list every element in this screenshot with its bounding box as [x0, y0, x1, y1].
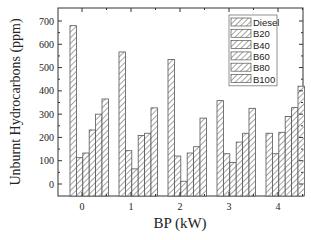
bar-b60-4 [285, 116, 291, 196]
bar-b40-4 [279, 132, 285, 196]
bar-b80-3 [243, 133, 249, 196]
bar-b40-2 [181, 181, 187, 196]
legend-label-b100: B100 [253, 74, 275, 85]
y-tick-label: 700 [39, 16, 54, 27]
bar-b40-3 [230, 162, 236, 196]
bar-b20-0 [76, 158, 82, 196]
y-axis-label: Unburnt Hydrocarbons (ppm) [8, 18, 24, 186]
bar-diesel-3 [217, 101, 223, 196]
y-tick-label: 500 [39, 62, 54, 73]
x-tick-label: 1 [129, 201, 134, 212]
bar-b100-1 [151, 108, 157, 196]
legend-swatch-b100 [231, 75, 251, 83]
legend-swatch-diesel [231, 18, 251, 26]
bar-b20-4 [272, 154, 278, 196]
bar-diesel-2 [168, 59, 174, 196]
y-tick-label: 0 [49, 179, 54, 190]
bar-b80-0 [96, 114, 102, 196]
bar-diesel-1 [119, 52, 125, 196]
y-tick-label: 300 [39, 109, 54, 120]
legend-swatch-b40 [231, 41, 251, 49]
legend-label-diesel: Diesel [253, 17, 279, 28]
bar-diesel-4 [266, 133, 272, 196]
bar-b100-0 [102, 99, 108, 196]
legend-label-b20: B20 [253, 28, 270, 39]
x-tick-label: 3 [227, 201, 232, 212]
legend-swatch-b80 [231, 63, 251, 71]
bar-b60-0 [89, 130, 95, 196]
bar-b60-3 [236, 142, 242, 196]
x-axis-label: BP (kW) [153, 215, 206, 232]
bar-b40-0 [83, 153, 89, 196]
legend-label-b40: B40 [253, 40, 270, 51]
y-tick-label: 400 [39, 85, 54, 96]
x-tick-label: 2 [178, 201, 183, 212]
x-tick-label: 0 [80, 201, 85, 212]
bar-chart: 0100200300400500600700 01234 Unburnt Hyd… [0, 0, 311, 240]
bar-b20-1 [125, 151, 131, 196]
y-tick-label: 200 [39, 132, 54, 143]
bar-diesel-0 [70, 26, 76, 196]
bar-b60-1 [138, 136, 144, 196]
legend-label-b60: B60 [253, 51, 270, 62]
bar-b40-1 [132, 169, 138, 196]
bar-b80-2 [194, 147, 200, 196]
legend: DieselB20B40B60B80B100 [229, 15, 279, 86]
bar-b60-2 [187, 153, 193, 196]
bar-b80-1 [145, 133, 151, 196]
legend-swatch-b60 [231, 52, 251, 60]
bar-b100-3 [249, 108, 255, 196]
y-tick-label: 100 [39, 155, 54, 166]
legend-swatch-b20 [231, 29, 251, 37]
bar-b80-4 [292, 108, 298, 196]
bar-b100-2 [200, 118, 206, 196]
x-tick-label: 4 [276, 201, 281, 212]
bar-b20-3 [223, 154, 229, 196]
legend-label-b80: B80 [253, 62, 270, 73]
bar-b20-2 [174, 156, 180, 196]
y-tick-label: 600 [39, 39, 54, 50]
